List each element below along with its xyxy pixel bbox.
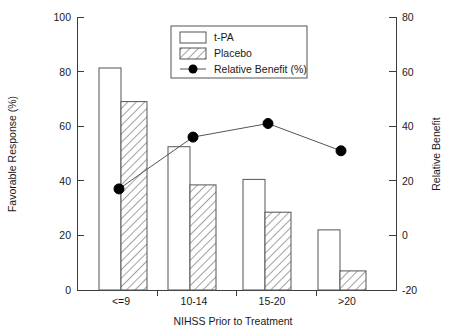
y-axis-title: Favorable Response (%) [6, 96, 18, 212]
relative-benefit-point [114, 184, 124, 194]
right-tick-label-60: 60 [402, 66, 414, 78]
open-bar-swatch [180, 32, 206, 43]
bar-placebo [190, 185, 216, 290]
right-tick-label-0: 0 [402, 229, 408, 241]
x-axis-title: NIHSS Prior to Treatment [173, 315, 292, 327]
relative-benefit-series [114, 119, 346, 194]
left-tick-label-40: 40 [59, 175, 71, 187]
bar-tpa [168, 147, 190, 290]
category-label: 15-20 [259, 295, 286, 307]
y2-axis-title: Relative Benefit [430, 117, 442, 191]
relative-benefit-point [263, 119, 273, 129]
relative-benefit-point [188, 132, 198, 142]
right-tick-label-m20: -20 [402, 284, 417, 296]
relative-benefit-line [119, 124, 341, 189]
hatched-bar-swatch [180, 48, 206, 59]
bar-tpa [99, 68, 121, 290]
right-tick-label-20: 20 [402, 175, 414, 187]
category-label: >20 [338, 295, 356, 307]
left-tick-label-80: 80 [59, 66, 71, 78]
bar-placebo [265, 212, 291, 290]
left-axis-ticks [77, 17, 84, 290]
left-tick-label-60: 60 [59, 120, 71, 132]
bar-placebo [340, 271, 366, 290]
legend-label-placebo: Placebo [214, 47, 252, 59]
bar-placebo [121, 102, 147, 290]
left-tick-label-0: 0 [65, 284, 71, 296]
chart-figure: 0 20 40 60 80 100 -20 0 20 40 60 80 [0, 0, 456, 333]
chart-canvas: 0 20 40 60 80 100 -20 0 20 40 60 80 [0, 0, 456, 333]
x-axis-category-labels: <=9 10-14 15-20 >20 [112, 295, 356, 307]
bar-tpa [243, 179, 265, 290]
bar-tpa [318, 230, 340, 290]
right-axis-ticks [389, 17, 396, 290]
bars-group [99, 68, 366, 290]
right-tick-label-80: 80 [402, 11, 414, 23]
left-tick-label-20: 20 [59, 229, 71, 241]
left-axis-tick-labels: 0 20 40 60 80 100 [53, 11, 71, 296]
category-label: 10-14 [181, 295, 208, 307]
legend-label-relative-benefit: Relative Benefit (%) [214, 63, 307, 75]
relative-benefit-point [336, 146, 346, 156]
right-tick-label-40: 40 [402, 120, 414, 132]
category-label: <=9 [112, 295, 130, 307]
left-tick-label-100: 100 [53, 11, 71, 23]
right-axis-tick-labels: -20 0 20 40 60 80 [402, 11, 417, 296]
chart-legend: t-PA Placebo Relative Benefit (%) [171, 26, 307, 78]
legend-label-tpa: t-PA [214, 31, 234, 43]
